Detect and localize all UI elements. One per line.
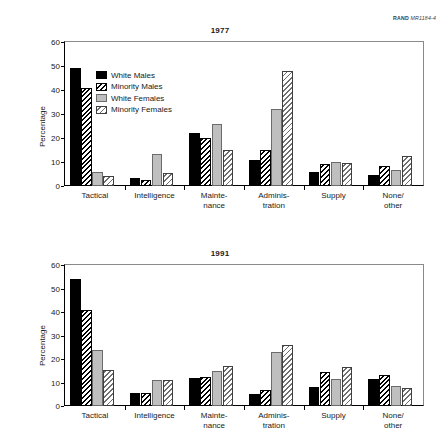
y-tick-label: 20 [0,355,60,364]
bar [103,176,114,186]
legend-item: White Females [96,93,172,103]
y-tick-mark [61,383,64,384]
y-tick-label: 10 [0,158,60,167]
bar [342,367,353,406]
bar [260,390,271,406]
legend-item: Minority Males [96,82,172,92]
bar-group [70,265,114,406]
bar [402,156,413,186]
bar [200,138,211,186]
bar [92,350,103,406]
legend-label: White Females [111,94,164,103]
x-tick-mark [184,186,185,190]
legend-swatch-solid-gray-icon [96,94,107,102]
bar [141,393,152,406]
legend-item: Minority Females [96,105,172,115]
x-tick-mark [304,406,305,410]
legend-item: White Males [96,70,172,80]
bar [189,133,200,186]
x-tick-mark [304,186,305,190]
y-tick-mark [61,42,64,43]
chart-title-1977: 1977 [0,26,440,35]
y-tick-label: 10 [0,378,60,387]
bar [309,387,320,406]
bar [70,68,81,186]
legend-swatch-hatch-gray-icon [96,106,107,114]
chart-panel-1991: 1991 Percentage 0102030405060 TacticalIn… [0,249,440,446]
bar [103,370,114,406]
y-tick-mark [61,162,64,163]
y-tick-label: 40 [0,86,60,95]
bar [200,377,211,406]
y-tick-label: 0 [0,182,60,191]
x-tick-mark [363,406,364,410]
bar [331,162,342,186]
x-tick-label: None/other [350,411,436,431]
y-tick-label: 60 [0,38,60,47]
legend-label: Minority Females [111,105,172,114]
bar [271,352,282,406]
y-tick-label: 40 [0,308,60,317]
bar [320,164,331,186]
bar [391,170,402,186]
chart-title-1991: 1991 [0,249,440,258]
y-tick-mark [61,90,64,91]
legend-swatch-hatch-black-icon [96,83,107,91]
bar [368,379,379,406]
y-tick-mark [61,406,64,407]
bar [368,175,379,186]
bar [379,375,390,406]
rand-credit-brand: RAND [393,15,409,21]
bar [260,150,271,186]
bar-group [368,265,412,406]
bar [309,172,320,186]
bar [402,388,413,406]
y-tick-mark [61,138,64,139]
y-tick-label: 60 [0,261,60,270]
bar-group [368,42,412,186]
figure-container: RAND MR1184-4 1977 Percentage 0102030405… [0,0,440,446]
bar [249,394,260,406]
legend-label: White Males [111,71,155,80]
bar [331,379,342,406]
y-tick-mark [61,114,64,115]
x-tick-mark [244,406,245,410]
y-tick-label: 50 [0,284,60,293]
bar [223,366,234,406]
y-tick-label: 30 [0,331,60,340]
y-tick-mark [61,265,64,266]
y-axis-label-1977: Percentage [38,87,47,167]
bar [70,279,81,406]
y-tick-label: 0 [0,402,60,411]
bar-group [189,42,233,186]
rand-credit-line: RAND MR1184-4 [393,15,436,21]
bar [130,178,141,186]
x-tick-mark [363,186,364,190]
x-tick-mark [184,406,185,410]
bar [163,380,174,406]
bar [81,88,92,186]
bar [391,386,402,406]
bar-group [309,42,353,186]
bar [130,393,141,406]
bar [163,173,174,186]
bar [342,163,353,186]
bar [271,109,282,186]
bar [152,154,163,186]
chart-panel-1977: 1977 Percentage 0102030405060 White Male… [0,26,440,226]
chart-legend: White MalesMinority MalesWhite FemalesMi… [96,70,172,115]
y-tick-mark [61,289,64,290]
bar [282,345,293,406]
y-tick-mark [61,336,64,337]
bar-group [309,265,353,406]
bar [92,172,103,186]
bar [379,166,390,186]
bar-group [189,265,233,406]
y-axis-label-1991: Percentage [38,306,47,386]
y-tick-mark [61,66,64,67]
bar [223,150,234,186]
bar [189,378,200,406]
y-tick-mark [61,359,64,360]
bar [249,160,260,186]
x-tick-mark [244,186,245,190]
